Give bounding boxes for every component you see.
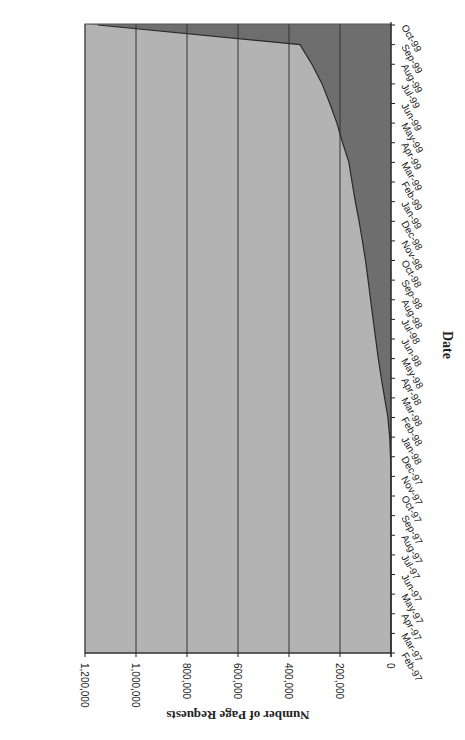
value-axis-title: Number of Page Requests	[166, 708, 309, 723]
value-tick-label: 600,000	[232, 663, 243, 700]
value-tick-label: 200,000	[334, 663, 345, 700]
value-tick-label: 0	[385, 663, 396, 669]
value-tick-label: 1,200,000	[79, 663, 90, 708]
area-chart: Feb-97Mar-97Apr-97May-97Jun-97Jul-97Aug-…	[0, 0, 465, 740]
chart-figure: Feb-97Mar-97Apr-97May-97Jun-97Jul-97Aug-…	[0, 0, 465, 740]
value-tick-label: 800,000	[181, 663, 192, 700]
value-tick-label: 1,000,000	[130, 663, 141, 708]
value-tick-label: 400,000	[283, 663, 294, 700]
date-axis-title: Date	[440, 331, 455, 359]
plot-area	[85, 24, 391, 653]
